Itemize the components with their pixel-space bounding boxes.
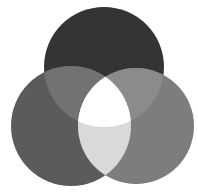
venn-diagram bbox=[0, 0, 198, 195]
